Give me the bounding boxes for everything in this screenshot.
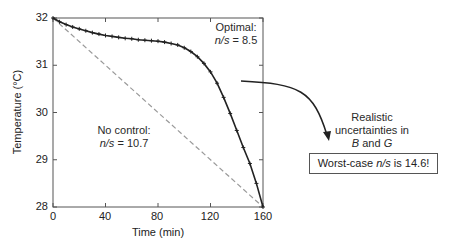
optimal-marker [163,40,167,44]
worst-var: n/s [376,157,391,169]
optimal-marker [254,181,258,185]
nocontrol-ns: n/s = 10.7 [89,137,159,150]
optimal-marker [104,33,108,37]
optimal-marker [71,25,75,29]
ns-val: = 10.7 [114,137,148,149]
optimal-marker [136,38,140,42]
optimal-marker [90,31,94,35]
x-tick-160: 160 [248,210,278,222]
optimal-marker [143,38,147,42]
x-tick-80: 80 [142,210,172,222]
uncert-line2: uncertainties in [326,124,418,137]
optimal-marker [77,27,81,31]
ns-var: n/s [215,34,230,46]
optimal-marker [169,42,173,46]
ns-var: n/s [100,137,115,149]
uncert-line1: Realistic [326,111,418,124]
optimal-marker [110,34,114,38]
optimal-marker [156,39,160,43]
optimal-annotation: Optimal: n/s = 8.5 [207,21,265,47]
ns-val: = 8.5 [229,34,257,46]
optimal-marker [149,39,153,43]
y-tick-32: 32 [18,11,48,23]
optimal-marker [117,35,121,39]
x-tick-0: 0 [38,210,68,222]
var-g: G [384,137,393,149]
uncertainty-arrow [241,81,327,135]
optimal-marker [123,36,127,40]
optimal-marker [84,29,88,33]
uncert-line3: B and G [326,137,418,150]
optimal-marker [130,37,134,41]
optimal-ns: n/s = 8.5 [207,34,265,47]
optimal-title: Optimal: [207,21,265,34]
optimal-marker [97,32,101,36]
y-axis-label: Temperature (°C) [11,52,23,172]
worst-case-box: Worst-case n/s is 14.6! [309,153,438,174]
nocontrol-annotation: No control: n/s = 10.7 [89,124,159,150]
x-tick-120: 120 [195,210,225,222]
uncertainty-annotation: Realistic uncertainties in B and G [326,111,418,150]
and-text: and [359,137,383,149]
worst-pre: Worst-case [318,157,376,169]
worst-post: is 14.6! [391,157,430,169]
x-tick-40: 40 [90,210,120,222]
x-axis-label: Time (min) [128,226,188,238]
plot-area [51,16,331,209]
nocontrol-title: No control: [89,124,159,137]
